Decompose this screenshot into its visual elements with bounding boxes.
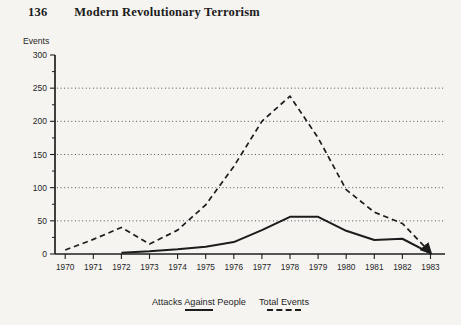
legend-label-attacks: Attacks Against People <box>152 297 246 307</box>
x-tick-label: 1977 <box>253 262 272 272</box>
legend-item-total: Total Events <box>259 297 309 311</box>
y-tick-label: 0 <box>42 249 47 259</box>
y-tick-label: 100 <box>33 183 47 193</box>
legend-label-total: Total Events <box>259 297 309 307</box>
x-tick-label: 1976 <box>225 262 244 272</box>
chart-canvas: 0501001502002503001970197119721973197419… <box>0 0 461 325</box>
x-tick-label: 1980 <box>337 262 356 272</box>
book-page: 136Modern Revolutionary Terrorism Events… <box>0 0 461 325</box>
x-tick-label: 1981 <box>365 262 384 272</box>
x-tick-label: 1971 <box>84 262 103 272</box>
x-tick-label: 1982 <box>393 262 412 272</box>
series-line-dashed <box>65 96 430 253</box>
legend-item-attacks: Attacks Against People <box>152 297 246 311</box>
y-tick-label: 300 <box>33 50 47 60</box>
x-tick-label: 1970 <box>56 262 75 272</box>
x-tick-label: 1974 <box>168 262 187 272</box>
x-tick-label: 1983 <box>421 262 440 272</box>
y-tick-label: 250 <box>33 83 47 93</box>
x-tick-label: 1972 <box>112 262 131 272</box>
y-tick-label: 150 <box>33 150 47 160</box>
chart-legend: Attacks Against People Total Events <box>0 297 461 311</box>
x-tick-label: 1973 <box>140 262 159 272</box>
x-tick-label: 1979 <box>309 262 328 272</box>
legend-dashed-line-sample <box>267 309 301 311</box>
x-tick-label: 1978 <box>281 262 300 272</box>
x-tick-label: 1975 <box>196 262 215 272</box>
y-tick-label: 200 <box>33 116 47 126</box>
y-tick-label: 50 <box>38 216 48 226</box>
legend-solid-line-sample <box>185 309 213 311</box>
